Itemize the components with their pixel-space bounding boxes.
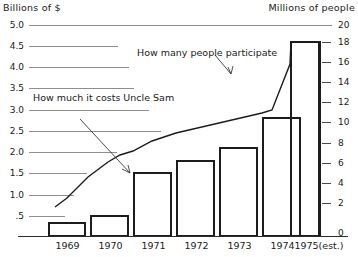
- chart-container: Billions of $ Millions of people 5.0 4.5…: [0, 0, 358, 257]
- people-participate-line: [55, 42, 291, 207]
- annotation-cost-uncle-sam: How much it costs Uncle Sam: [33, 92, 174, 103]
- x-axis-label-1975: 1975(est.): [288, 240, 350, 251]
- line-series-overlay: [0, 0, 358, 257]
- annotation-people-participate: How many people participate: [137, 47, 277, 58]
